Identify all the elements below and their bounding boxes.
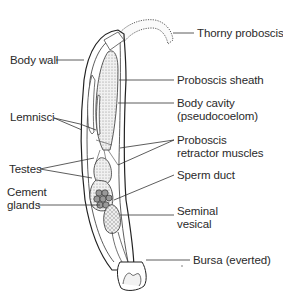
label-thorny-proboscis: Thorny proboscis	[197, 27, 283, 40]
seminal-vesical	[104, 205, 121, 234]
thorny-proboscis	[117, 20, 173, 44]
label-proboscis-sheath: Proboscis sheath	[177, 74, 264, 87]
label-testes: Testes	[9, 163, 42, 176]
label-vesical: vesical	[177, 218, 211, 231]
lemnisci	[88, 75, 95, 134]
label-pseudocoelom: (pseudocoelom)	[177, 110, 258, 123]
label-lemnisci: Lemnisci	[10, 111, 55, 124]
label-bursa: Bursa (everted)	[193, 254, 271, 267]
label-retractor-muscles: retractor muscles	[177, 147, 264, 160]
label-proboscis: Proboscis	[177, 134, 227, 147]
label-cement: Cement	[7, 186, 47, 199]
label-sperm-duct: Sperm duct	[177, 169, 235, 182]
label-glands: glands	[7, 199, 40, 212]
label-body-cavity: Body cavity	[177, 97, 235, 110]
label-seminal: Seminal	[177, 205, 218, 218]
label-body-wall: Body wall	[10, 54, 58, 67]
